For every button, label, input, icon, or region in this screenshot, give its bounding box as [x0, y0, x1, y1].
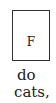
figure-box: F: [12, 10, 50, 61]
text-line-1: do: [17, 67, 36, 83]
text-line-2: cats,: [14, 84, 50, 100]
box-label: F: [13, 36, 49, 48]
